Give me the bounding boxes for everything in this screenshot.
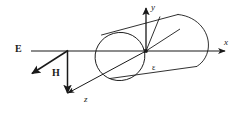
x-axis-label: x <box>224 38 228 47</box>
origin-dot <box>144 49 148 53</box>
cylinder-top-edge <box>102 15 179 36</box>
diagram-svg <box>0 0 239 115</box>
z-axis-arrow <box>68 51 146 93</box>
z-axis-label: z <box>84 95 88 104</box>
e-field-vector <box>32 51 68 74</box>
cylinder-far-cap <box>178 15 208 67</box>
y-axis-label: y <box>151 3 155 12</box>
e-field-label: E <box>15 44 22 54</box>
permittivity-label: ε <box>152 64 155 72</box>
figure-canvas: E H z y x ε <box>0 0 239 115</box>
cylinder-axis-indicator <box>146 29 180 51</box>
z-axis-back-segment <box>146 17 160 52</box>
h-field-label: H <box>52 68 60 78</box>
